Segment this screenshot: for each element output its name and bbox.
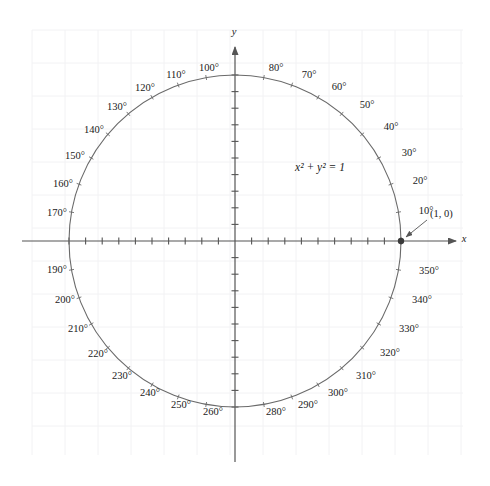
degree-label-60: 60° — [332, 81, 347, 92]
degree-label-300: 300° — [328, 387, 348, 398]
circle-degree-tick — [396, 212, 401, 213]
degree-label-350: 350° — [419, 265, 439, 276]
degree-label-220: 220° — [88, 348, 108, 359]
degree-label-120: 120° — [135, 82, 155, 93]
point-marker-1-0 — [398, 238, 404, 244]
circle-degree-tick — [69, 269, 74, 270]
degree-label-150: 150° — [65, 150, 85, 161]
circle-degree-tick — [396, 269, 401, 270]
circle-equation-label: x² + y² = 1 — [294, 161, 345, 174]
degree-label-250: 250° — [171, 399, 191, 410]
degree-label-320: 320° — [380, 347, 400, 358]
y-axis-label: y — [231, 26, 237, 37]
degree-label-190: 190° — [47, 264, 67, 275]
unit-circle-diagram: 10°20°30°40°50°60°70°80°100°110°120°130°… — [0, 0, 490, 486]
degree-label-330: 330° — [399, 323, 419, 334]
circle-degree-tick — [206, 75, 207, 80]
degree-label-230: 230° — [112, 370, 132, 381]
degree-label-20: 20° — [413, 175, 428, 186]
degree-label-310: 310° — [356, 370, 376, 381]
degree-label-260: 260° — [203, 406, 223, 417]
degree-label-200: 200° — [55, 294, 75, 305]
degree-label-160: 160° — [53, 178, 73, 189]
unit-circle-figure: 10°20°30°40°50°60°70°80°100°110°120°130°… — [0, 0, 490, 486]
circle-degree-tick — [69, 212, 74, 213]
circle-degree-tick — [263, 402, 264, 407]
degree-label-170: 170° — [47, 207, 67, 218]
axes — [22, 47, 456, 462]
degree-label-140: 140° — [84, 124, 104, 135]
degree-label-70: 70° — [302, 69, 317, 80]
point-label-1-0: (1, 0) — [430, 208, 453, 220]
degree-label-240: 240° — [140, 387, 160, 398]
degree-label-30: 30° — [402, 147, 417, 158]
degree-label-340: 340° — [412, 294, 432, 305]
degree-labels: 10°20°30°40°50°60°70°80°100°110°120°130°… — [47, 62, 439, 417]
x-axis-label: x — [461, 233, 467, 244]
degree-label-110: 110° — [166, 69, 186, 80]
degree-label-130: 130° — [107, 101, 127, 112]
degree-label-290: 290° — [298, 399, 318, 410]
degree-label-210: 210° — [68, 323, 88, 334]
circle-degree-tick — [263, 75, 264, 80]
degree-label-280: 280° — [266, 406, 286, 417]
degree-label-100: 100° — [199, 62, 219, 73]
degree-label-40: 40° — [384, 121, 399, 132]
degree-label-80: 80° — [269, 62, 284, 73]
degree-label-50: 50° — [360, 99, 375, 110]
